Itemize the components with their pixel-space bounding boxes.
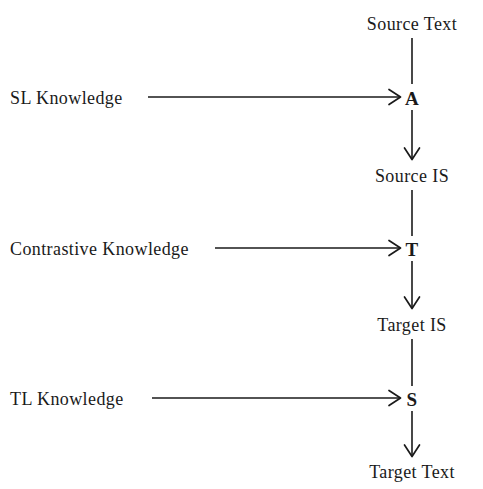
node-source-is: Source IS bbox=[375, 166, 449, 186]
node-target-text: Target Text bbox=[369, 462, 455, 482]
node-contrastive-knowledge: Contrastive Knowledge bbox=[10, 239, 189, 259]
node-sl-knowledge: SL Knowledge bbox=[10, 88, 123, 108]
node-target-is: Target IS bbox=[377, 315, 447, 335]
node-operator-s: S bbox=[406, 390, 417, 410]
translation-process-diagram: Source Text A Source IS T Target IS S Ta… bbox=[0, 0, 483, 489]
node-tl-knowledge: TL Knowledge bbox=[10, 389, 124, 409]
node-operator-t: T bbox=[405, 240, 418, 260]
node-operator-a: A bbox=[405, 89, 419, 109]
node-source-text: Source Text bbox=[367, 14, 457, 34]
